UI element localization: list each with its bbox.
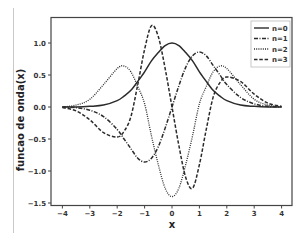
y-tick-label: 0.0 <box>34 104 47 112</box>
y-axis-label: funcao de onda(x) <box>15 69 26 172</box>
x-tick-label: −3 <box>84 210 95 218</box>
x-tick-label: −2 <box>112 210 123 218</box>
series-line-n2 <box>62 66 281 197</box>
wavefunction-chart: −4−3−2−101234 −1.5−1.0−0.50.00.51.0 x fu… <box>0 0 304 241</box>
x-tick-label: 3 <box>252 210 257 218</box>
y-tick-label: −1.5 <box>28 200 46 208</box>
x-tick-label: −4 <box>57 210 68 218</box>
y-tick-label: −0.5 <box>28 136 46 144</box>
legend: n=0 n=1 n=2 n=3 <box>251 21 290 67</box>
x-tick-label: 1 <box>197 210 202 218</box>
y-tick-label: −1.0 <box>28 168 46 176</box>
y-tick-label: 0.5 <box>34 72 47 80</box>
series-line-n0 <box>62 43 281 107</box>
x-tick-label: 4 <box>279 210 284 218</box>
x-tick-label: −1 <box>139 210 150 218</box>
x-axis-label: x <box>169 219 176 230</box>
x-axis-ticks: −4−3−2−101234 <box>57 206 284 219</box>
legend-label: n=2 <box>272 46 288 54</box>
y-axis-ticks: −1.5−1.0−0.50.00.51.0 <box>28 40 51 208</box>
plot-lines <box>62 25 281 196</box>
x-tick-label: 0 <box>170 210 175 218</box>
legend-label: n=0 <box>272 25 288 33</box>
x-tick-label: 2 <box>224 210 229 218</box>
legend-label: n=3 <box>272 56 288 64</box>
legend-label: n=1 <box>272 35 288 43</box>
y-tick-label: 1.0 <box>34 40 47 48</box>
series-line-n1 <box>62 52 281 162</box>
